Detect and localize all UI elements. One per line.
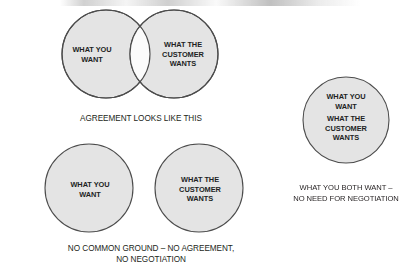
scan-artifact (60, 0, 360, 6)
label-customer-wants: WHAT THE CUSTOMER WANTS (168, 175, 232, 204)
caption-no-common-ground: NO COMMON GROUND – NO AGREEMENT, NO NEGO… (38, 243, 264, 265)
caption-both-want: WHAT YOU BOTH WANT – NO NEED FOR NEGOTIA… (286, 182, 406, 204)
label-customer-wants: WHAT THE CUSTOMER WANTS (152, 40, 214, 69)
venn-figure: WHAT YOU WANT WHAT THE CUSTOMER WANTS AG… (0, 0, 411, 270)
caption-agreement: AGREEMENT LOOKS LIKE THIS (45, 113, 237, 124)
label-you-want: WHAT YOU WANT (62, 45, 122, 64)
label-you-want: WHAT YOU WANT (58, 180, 122, 199)
label-you-want: WHAT YOU WANT (311, 92, 381, 111)
label-customer-wants: WHAT THE CUSTOMER WANTS (311, 114, 381, 143)
